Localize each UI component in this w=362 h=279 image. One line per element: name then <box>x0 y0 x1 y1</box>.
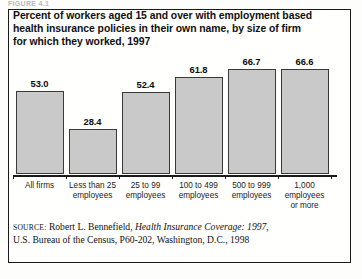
x-axis-category-label-line: employees <box>278 191 331 201</box>
x-axis-category-label: 25 to 99employees <box>119 181 172 201</box>
x-axis-category-label-line: employees <box>225 191 278 201</box>
bar-rect <box>16 91 64 174</box>
chart-title: Percent of workers aged 15 and over with… <box>13 9 325 49</box>
x-axis-tick <box>331 175 332 179</box>
bar-value-label: 28.4 <box>84 117 102 127</box>
bar-value-label: 61.8 <box>190 65 208 75</box>
bar-rect <box>69 129 117 174</box>
bar-value-label: 66.6 <box>296 57 314 67</box>
x-axis-category-label: Less than 25employees <box>66 181 119 201</box>
x-axis-tick-row <box>13 175 331 180</box>
x-axis-category-label-line: All firms <box>13 181 66 191</box>
bar-rect <box>281 69 329 174</box>
x-axis-category-label-line: employees <box>119 191 172 201</box>
x-axis-category-label: 100 to 499employees <box>172 181 225 201</box>
x-axis-category-label-line: or more <box>278 201 331 211</box>
bar-group: 28.4 <box>69 52 117 174</box>
source-work-title: Health Insurance Coverage: 1997 <box>135 221 266 232</box>
x-axis-tick <box>66 175 67 179</box>
source-author: Robert L. Bennefield, <box>46 221 134 232</box>
x-axis-category-label-line: 100 to 499 <box>172 181 225 191</box>
figure-root: FIGURE 4.1 Percent of workers aged 15 an… <box>0 0 362 279</box>
bar-group: 61.8 <box>175 52 223 174</box>
x-axis-label-row: All firmsLess than 25employees25 to 99em… <box>13 181 337 221</box>
source-label: Source: <box>13 223 46 232</box>
x-axis-category-label-line: Less than 25 <box>66 181 119 191</box>
x-axis-category-label: All firms <box>13 181 66 191</box>
bar-value-label: 66.7 <box>243 57 261 67</box>
bar-rect <box>228 69 276 174</box>
chart-title-line-2: health insurance policies in their own n… <box>13 22 325 35</box>
x-axis-category-label-line: employees <box>172 191 225 201</box>
source-note: Source: Robert L. Bennefield, Health Ins… <box>13 221 329 247</box>
bar-value-label: 52.4 <box>137 80 155 90</box>
figure-caption-strip: FIGURE 4.1 <box>8 0 128 7</box>
x-axis-category-label-line: 25 to 99 <box>119 181 172 191</box>
bar-group: 53.0 <box>16 52 64 174</box>
x-axis-tick <box>13 175 14 179</box>
x-axis-tick <box>225 175 226 179</box>
x-axis-tick <box>172 175 173 179</box>
plot-area: 53.028.452.461.866.766.6 <box>13 52 331 174</box>
bar-rect <box>175 77 223 174</box>
source-line-2: U.S. Bureau of the Census, P60-202, Wash… <box>13 234 249 245</box>
x-axis-category-label-line: 500 to 999 <box>225 181 278 191</box>
chart-title-line-1: Percent of workers aged 15 and over with… <box>13 9 325 22</box>
bar-group: 66.6 <box>281 52 329 174</box>
source-tail: , <box>266 221 268 232</box>
bar-group: 52.4 <box>122 52 170 174</box>
x-axis-category-label-line: 1,000 <box>278 181 331 191</box>
bar-value-label: 53.0 <box>31 79 49 89</box>
chart-title-line-3: for which they worked, 1997 <box>13 35 325 48</box>
x-axis-tick <box>119 175 120 179</box>
bar-group: 66.7 <box>228 52 276 174</box>
x-axis-category-label: 1,000employeesor more <box>278 181 331 212</box>
x-axis-tick <box>278 175 279 179</box>
bar-rect <box>122 92 170 174</box>
x-axis-category-label-line: employees <box>66 191 119 201</box>
x-axis-category-label: 500 to 999employees <box>225 181 278 201</box>
